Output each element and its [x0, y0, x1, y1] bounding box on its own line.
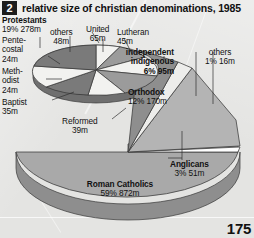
label-independent-indigenous: independent indigenous 6% 95m: [104, 48, 174, 76]
label-roman-catholics: Roman Catholics 59% 872m: [60, 180, 180, 199]
label-pentecostal: Pente- costal 24m: [2, 36, 26, 64]
label-anglicans: Anglicans 3% 51m: [170, 160, 209, 179]
label-others-protestant: others 48m: [50, 28, 72, 47]
figure-number-badge: 2: [2, 1, 17, 15]
label-baptist: Baptist 35m: [2, 98, 27, 117]
figure-title: relative size of christian denominations…: [22, 1, 241, 15]
label-orthodox: Orthodox 12% 170m: [128, 88, 167, 107]
label-lutheran: Lutheran 45m: [117, 28, 149, 47]
label-others-main: others 1% 16m: [196, 48, 244, 67]
figure-header: 2 relative size of christian denominatio…: [0, 0, 254, 17]
label-methodist: Meth- odist 24m: [2, 67, 23, 95]
page-number: 175: [227, 220, 251, 237]
label-reformed: Reformed 39m: [62, 117, 98, 136]
label-protestants: Protestants 19% 278m: [2, 16, 47, 35]
label-united: United 65m: [86, 25, 109, 44]
subslice-protestant-remainder: [34, 45, 96, 70]
